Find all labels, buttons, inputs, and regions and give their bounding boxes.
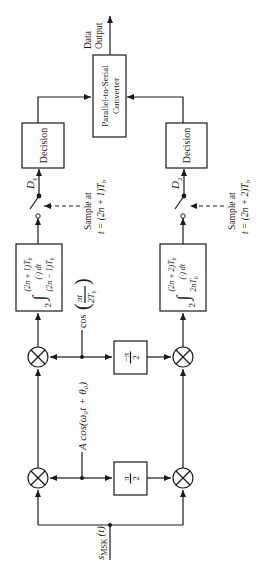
carrier-label: A cos(ω₀t + θ₀) (76, 382, 89, 451)
svg-text:Sample at: Sample at (227, 192, 237, 230)
svg-text:−π: −π (121, 352, 131, 362)
svg-text:cos: cos (77, 315, 88, 328)
shaping-line (50, 330, 171, 359)
svg-text:π: π (121, 476, 131, 481)
multiplier-middle-right (173, 347, 193, 367)
svg-text:(·) dt: (·) dt (178, 263, 187, 279)
carrier-line (50, 452, 171, 480)
svg-text:(·) dt: (·) dt (34, 263, 43, 279)
input-label: sMSK(t) (94, 526, 109, 560)
integrator-1: 2 ∫ (2n + 1)Tb (·) dt (2n − 1)Tb (16, 244, 62, 311)
multiplier-middle-left (28, 347, 48, 367)
data-output-label: Data Output (83, 22, 104, 49)
svg-text:Converter: Converter (111, 78, 121, 114)
svg-text:D1: D1 (24, 177, 39, 190)
svg-text:): ) (71, 278, 94, 285)
svg-text:(: ( (71, 303, 94, 310)
svg-text:πt: πt (74, 294, 84, 302)
msk-receiver-diagram: sMSK(t) A cos(ω₀t + θ₀) π 2 (0, 0, 261, 585)
svg-text:(2n − 1)Tb: (2n − 1)Tb (45, 257, 55, 291)
input-line (38, 490, 183, 560)
svg-text:t = (2n + 1)Tb: t = (2n + 1)Tb (96, 179, 107, 234)
phase-shifter-plus: π 2 (114, 462, 147, 495)
svg-text:Decision: Decision (38, 128, 49, 164)
sample-note-1: Sample at t = (2n + 1)Tb (83, 179, 107, 234)
svg-text:(2n + 2)Tb: (2n + 2)Tb (167, 257, 177, 291)
decision-box-2: Decision (166, 123, 207, 168)
decision-box-1: Decision (22, 123, 64, 168)
multiplier-bottom-left (28, 468, 48, 488)
d2-label: D2 (169, 177, 184, 190)
svg-text:A cos(ω₀t + θ₀): A cos(ω₀t + θ₀) (76, 382, 89, 451)
svg-text:2: 2 (187, 303, 197, 308)
svg-text:Output: Output (94, 22, 104, 49)
svg-text:Parallel-to-Serial: Parallel-to-Serial (100, 65, 110, 127)
integrator-2: 2 ∫ (2n + 2)Tb (·) dt 2nTb (160, 244, 206, 311)
svg-text:Sample at: Sample at (83, 192, 93, 230)
shaping-label: cos ( πt 2Tb ) (71, 278, 97, 328)
svg-text:Data: Data (83, 30, 93, 49)
phase-shifter-minus: −π 2 (114, 341, 147, 374)
svg-text:2: 2 (43, 303, 53, 308)
d1-label: D1 (24, 177, 39, 190)
multiplier-bottom-right (173, 468, 193, 488)
svg-text:(2n + 1)Tb: (2n + 1)Tb (23, 257, 33, 291)
svg-text:Decision: Decision (181, 128, 192, 164)
svg-text:2Tb: 2Tb (86, 290, 97, 303)
parallel-to-serial-converter: Parallel-to-Serial Converter (93, 55, 126, 137)
sample-note-2: Sample at t = (2n + 2)Tb (227, 179, 251, 234)
svg-text:D2: D2 (169, 177, 184, 190)
svg-text:sMSK(t): sMSK(t) (94, 526, 109, 560)
svg-text:t = (2n + 2)Tb: t = (2n + 2)Tb (240, 179, 251, 234)
svg-text:2: 2 (131, 355, 141, 360)
svg-text:2: 2 (131, 476, 141, 481)
